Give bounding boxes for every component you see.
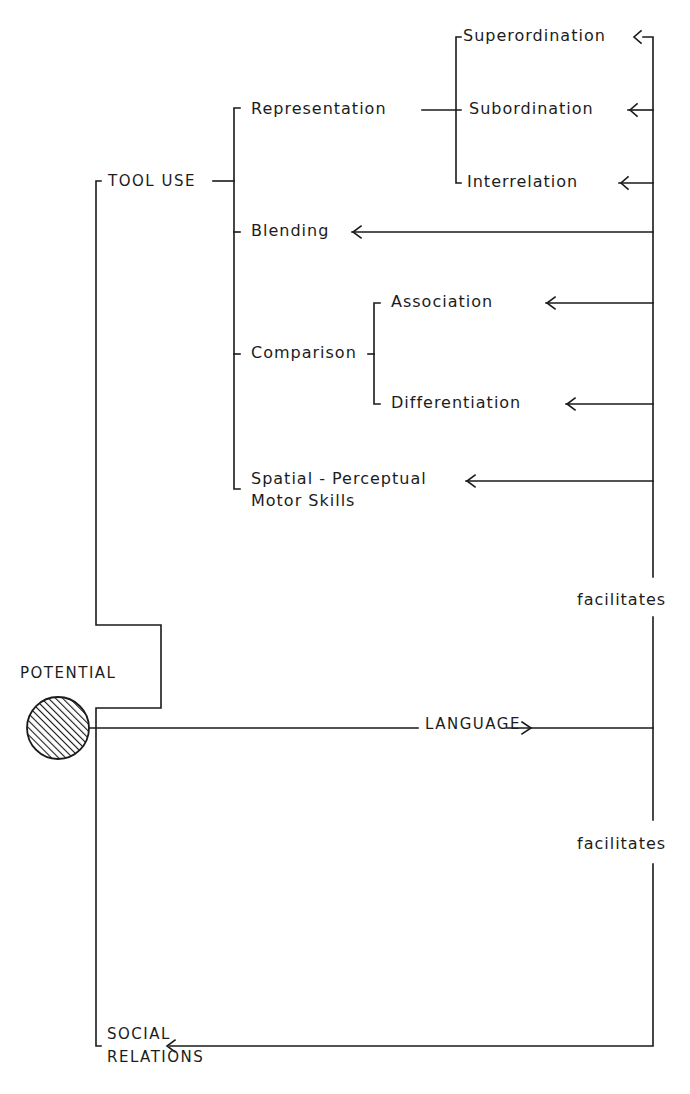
interrelation-label: Interrelation bbox=[467, 173, 578, 191]
differentiation-label: Differentiation bbox=[391, 394, 521, 412]
superordination-label: Superordination bbox=[463, 27, 606, 45]
tool-use-branch bbox=[96, 181, 161, 1046]
subordination-label: Subordination bbox=[469, 100, 594, 118]
relations-label: RELATIONS bbox=[107, 1048, 204, 1066]
trunk-bottom bbox=[170, 864, 653, 1046]
tool-use-bracket bbox=[234, 108, 240, 489]
facilitates-upper-label: facilitates bbox=[577, 591, 666, 609]
trunk-top bbox=[643, 37, 653, 577]
spatial-perceptual-label: Spatial - Perceptual bbox=[251, 470, 427, 488]
tool-use-label: TOOL USE bbox=[108, 172, 196, 190]
diagram-lines bbox=[0, 0, 690, 1094]
potential-label: POTENTIAL bbox=[20, 664, 116, 682]
comparison-bracket bbox=[374, 303, 380, 404]
arrowhead-superordination bbox=[634, 31, 641, 43]
blending-label: Blending bbox=[251, 222, 329, 240]
association-label: Association bbox=[391, 293, 493, 311]
language-label: LANGUAGE bbox=[425, 715, 521, 733]
social-label: SOCIAL bbox=[107, 1025, 171, 1043]
comparison-label: Comparison bbox=[251, 344, 357, 362]
facilitates-lower-label: facilitates bbox=[577, 835, 666, 853]
representation-label: Representation bbox=[251, 100, 387, 118]
potential-circle bbox=[27, 697, 89, 759]
motor-skills-label: Motor Skills bbox=[251, 492, 355, 510]
